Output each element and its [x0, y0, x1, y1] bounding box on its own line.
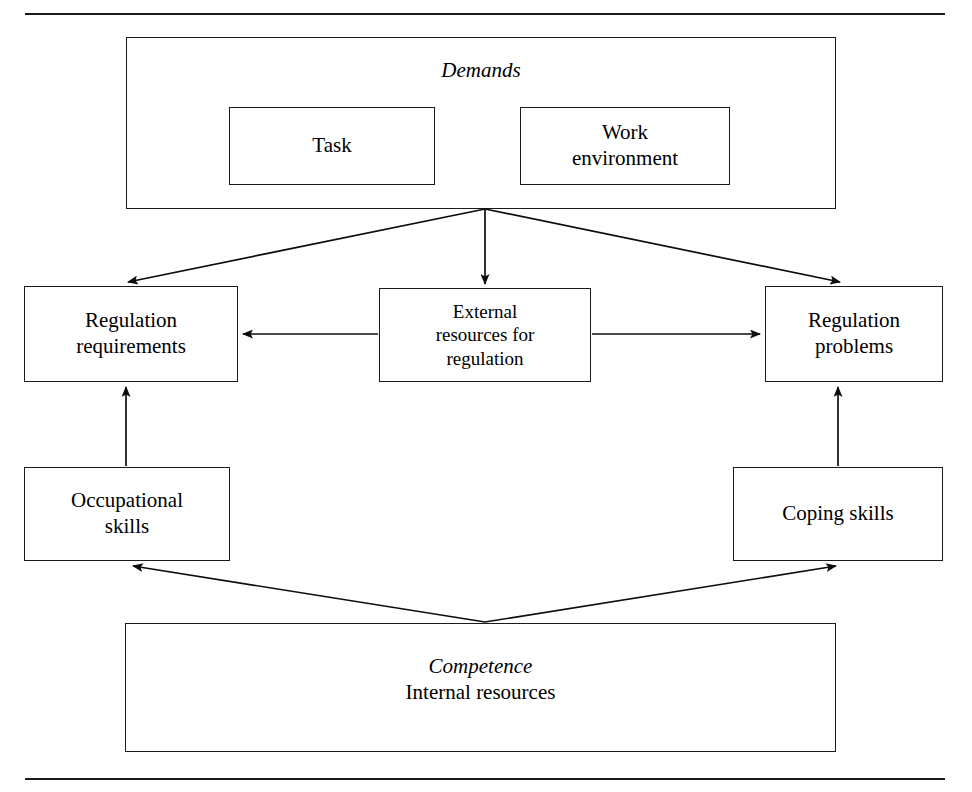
regulation-problems-box: Regulation problems — [765, 286, 943, 382]
external-resources-label-line2: resources for — [436, 323, 535, 346]
arrow-demands-to-regulation-problems — [485, 209, 840, 282]
occupational-skills-box: Occupational skills — [24, 467, 230, 561]
external-resources-label-line1: External — [453, 300, 517, 323]
work-environment-label-line1: Work — [602, 120, 648, 146]
task-label: Task — [312, 133, 351, 159]
arrow-competence-to-coping-skills — [485, 566, 836, 622]
external-resources-label-line3: regulation — [446, 347, 523, 370]
regulation-requirements-box: Regulation requirements — [24, 286, 238, 382]
occupational-skills-label-line2: skills — [105, 514, 149, 540]
occupational-skills-label-line1: Occupational — [71, 488, 183, 514]
arrow-competence-to-occupational-skills — [133, 566, 485, 622]
regulation-requirements-label-line2: requirements — [76, 334, 186, 360]
top-horizontal-rule — [25, 13, 945, 15]
work-environment-box: Work environment — [520, 107, 730, 185]
regulation-problems-label-line2: problems — [815, 334, 893, 360]
demands-title: Demands — [441, 58, 520, 84]
regulation-problems-label-line1: Regulation — [808, 308, 900, 334]
coping-skills-box: Coping skills — [733, 467, 943, 561]
bottom-horizontal-rule — [25, 778, 945, 780]
coping-skills-label: Coping skills — [782, 501, 893, 527]
competence-group-box: Competence Internal resources — [125, 623, 836, 752]
regulation-requirements-label-line1: Regulation — [85, 308, 177, 334]
diagram-canvas: Demands Task Work environment Regulation… — [0, 0, 972, 792]
arrow-demands-to-regulation-requirements — [128, 209, 485, 282]
competence-title: Competence — [429, 654, 533, 680]
external-resources-box: External resources for regulation — [379, 288, 591, 382]
competence-subtitle: Internal resources — [406, 680, 556, 706]
work-environment-label-line2: environment — [572, 146, 678, 172]
task-box: Task — [229, 107, 435, 185]
